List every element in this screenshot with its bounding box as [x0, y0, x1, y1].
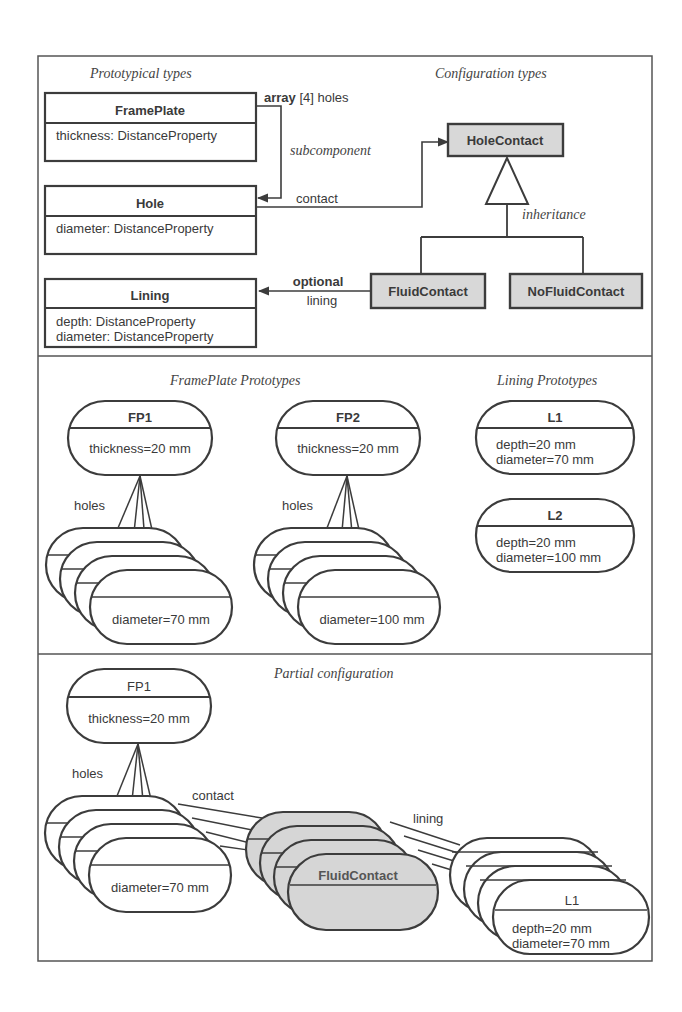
prototype-l2-attr-depth: depth=20 mm: [496, 535, 576, 550]
inheritance-triangle-icon: [486, 158, 528, 204]
prototype-l1-attr-diameter: diameter=70 mm: [496, 452, 594, 467]
partial-holes-label: holes: [72, 766, 104, 781]
class-lining[interactable]: Lining depth: DistanceProperty diameter:…: [45, 279, 256, 347]
prototype-l1-attr-depth: depth=20 mm: [496, 437, 576, 452]
prototype-fp1[interactable]: FP1 thickness=20 mm: [68, 401, 212, 475]
subcomponent-relation: array [4] holes subcomponent: [256, 90, 372, 198]
class-holecontact-name: HoleContact: [467, 133, 544, 148]
prototype-fp1-attr: thickness=20 mm: [89, 441, 191, 456]
array-holes-label: array [4] holes: [264, 90, 349, 105]
partial-contact-label: contact: [192, 788, 234, 803]
heading-lining-prototypes: Lining Prototypes: [496, 373, 598, 388]
class-frameplate-name: FramePlate: [115, 103, 185, 118]
fp2-hole-attr: diameter=100 mm: [319, 612, 424, 627]
fp1-holes-label: holes: [74, 498, 106, 513]
class-hole-name: Hole: [136, 196, 164, 211]
inheritance-relation: inheritance: [421, 158, 586, 274]
partial-fp1-name: FP1: [127, 679, 151, 694]
prototype-l1-name: L1: [547, 410, 562, 425]
class-lining-name: Lining: [131, 288, 170, 303]
prototype-fp2-name: FP2: [336, 410, 360, 425]
class-hole-attr: diameter: DistanceProperty: [56, 221, 214, 236]
class-nofluidcontact[interactable]: NoFluidContact: [510, 274, 642, 308]
prototype-fp2-attr: thickness=20 mm: [297, 441, 399, 456]
partial-l1-attr-diameter: diameter=70 mm: [512, 936, 610, 951]
lining-relation-label: lining: [307, 293, 337, 308]
partial-l1-name: L1: [565, 893, 579, 908]
subcomponent-label: subcomponent: [290, 143, 372, 158]
diagram-canvas: Prototypical types Configuration types F…: [0, 0, 682, 1012]
optional-lining-relation: optional lining: [259, 274, 371, 308]
class-frameplate[interactable]: FramePlate thickness: DistanceProperty: [45, 93, 256, 161]
fp2-holes-label: holes: [282, 498, 314, 513]
prototype-l2-name: L2: [547, 508, 562, 523]
class-fluidcontact-name: FluidContact: [388, 284, 468, 299]
partial-lining-label: lining: [413, 811, 443, 826]
prototype-l2[interactable]: L2 depth=20 mm diameter=100 mm: [476, 499, 634, 572]
partial-fluidcontact-stack[interactable]: FluidContact: [246, 812, 438, 930]
prototype-l1[interactable]: L1 depth=20 mm diameter=70 mm: [476, 401, 634, 474]
heading-frameplate-prototypes: FramePlate Prototypes: [169, 373, 301, 388]
class-lining-attr-diameter: diameter: DistanceProperty: [56, 329, 214, 344]
fp1-hole-stack[interactable]: diameter=70 mm: [46, 528, 232, 644]
optional-label: optional: [293, 274, 344, 289]
class-hole[interactable]: Hole diameter: DistanceProperty: [45, 186, 256, 254]
heading-configuration-types: Configuration types: [435, 66, 547, 81]
partial-hole-stack[interactable]: diameter=70 mm: [45, 796, 231, 912]
fp1-hole-attr: diameter=70 mm: [112, 612, 210, 627]
prototype-fp1-name: FP1: [128, 410, 152, 425]
prototype-l2-attr-diameter: diameter=100 mm: [496, 550, 601, 565]
contact-label: contact: [296, 191, 338, 206]
partial-fp1-attr: thickness=20 mm: [88, 711, 190, 726]
partial-l1-stack[interactable]: L1 depth=20 mm diameter=70 mm: [450, 838, 649, 954]
heading-prototypical-types: Prototypical types: [89, 66, 192, 81]
class-frameplate-attr: thickness: DistanceProperty: [56, 128, 218, 143]
class-fluidcontact[interactable]: FluidContact: [371, 274, 485, 308]
class-nofluidcontact-name: NoFluidContact: [528, 284, 625, 299]
inheritance-label: inheritance: [522, 207, 586, 222]
fp2-hole-stack[interactable]: diameter=100 mm: [254, 528, 440, 644]
class-lining-attr-depth: depth: DistanceProperty: [56, 314, 196, 329]
partial-l1-attr-depth: depth=20 mm: [512, 921, 592, 936]
prototype-fp2[interactable]: FP2 thickness=20 mm: [276, 401, 420, 475]
partial-hole-attr: diameter=70 mm: [111, 880, 209, 895]
partial-fluidcontact-name: FluidContact: [318, 868, 398, 883]
partial-fp1[interactable]: FP1 thickness=20 mm: [67, 669, 211, 743]
class-holecontact[interactable]: HoleContact: [448, 124, 563, 156]
heading-partial-configuration: Partial configuration: [273, 666, 393, 681]
